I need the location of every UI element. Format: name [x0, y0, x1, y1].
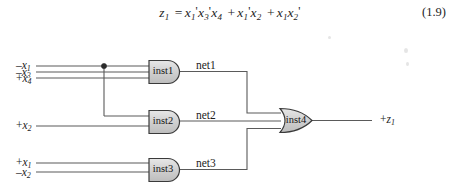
circuit-canvas — [0, 0, 460, 192]
gate-label-inst1: inst1 — [148, 66, 178, 77]
net-label-net3: net3 — [196, 158, 216, 170]
figure-page: z1 =x1'x3'x4 +x1'x2 +x1x2' (1.9) — [0, 0, 460, 192]
gate-label-inst2: inst2 — [148, 116, 178, 127]
wire-junction-dot — [101, 63, 106, 68]
input-label-x4-pos: +x4 — [16, 73, 32, 86]
output-label-z1: +z1 — [380, 114, 395, 127]
input-label-x2-pos: +x2 — [16, 120, 32, 133]
gate-label-inst4: inst4 — [282, 115, 310, 126]
input-label-x2-neg: –x2 — [16, 167, 31, 180]
scan-speck-3 — [406, 62, 409, 66]
gate-label-inst3: inst3 — [148, 164, 178, 175]
circuit-diagram: –x1 –x3 +x4 +x2 +x1 –x2 net1 net2 net3 i… — [0, 0, 460, 192]
wire-net1 — [180, 72, 281, 114]
net-label-net1: net1 — [196, 60, 216, 72]
net-label-net2: net2 — [196, 110, 216, 122]
scan-speck-2 — [404, 48, 408, 53]
scan-speck-1 — [328, 36, 331, 39]
